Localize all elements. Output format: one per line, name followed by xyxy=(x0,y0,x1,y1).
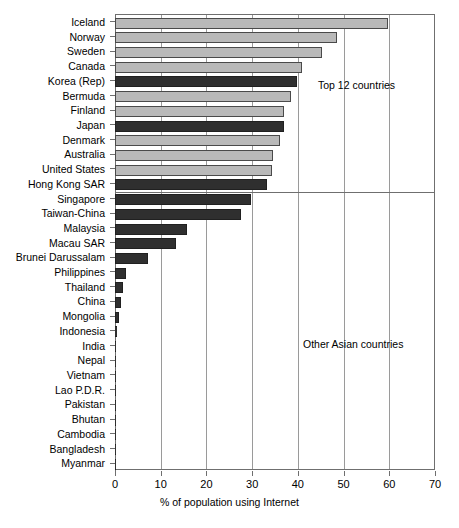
x-tick-0 xyxy=(115,471,116,476)
x-tick-label-70: 70 xyxy=(415,478,455,490)
x-tick-label-30: 30 xyxy=(232,478,272,490)
bar-bhutan xyxy=(115,415,116,426)
bar-sweden xyxy=(115,47,322,58)
bar-denmark xyxy=(115,135,280,146)
bar-pakistan xyxy=(115,400,116,411)
bar-bermuda xyxy=(115,91,291,102)
bar-korea-rep xyxy=(115,76,297,87)
bar-finland xyxy=(115,106,284,117)
x-tick-10 xyxy=(161,471,162,476)
bar-japan xyxy=(115,121,284,132)
bar-united-states xyxy=(115,165,272,176)
bar-bangladesh xyxy=(115,444,116,455)
bar-taiwan-china xyxy=(115,209,241,220)
bar-vietnam xyxy=(115,371,116,382)
x-tick-label-0: 0 xyxy=(95,478,135,490)
bar-macau-sar xyxy=(115,238,176,249)
annotation-top-12: Top 12 countries xyxy=(318,79,395,91)
bar-brunei-darussalam xyxy=(115,253,148,264)
bar-malaysia xyxy=(115,224,187,235)
bar-mongolia xyxy=(115,312,119,323)
x-tick-60 xyxy=(389,471,390,476)
x-tick-40 xyxy=(298,471,299,476)
x-tick-label-10: 10 xyxy=(141,478,181,490)
bar-thailand xyxy=(115,282,123,293)
internet-usage-bar-chart: IcelandNorwaySwedenCanadaKorea (Rep)Berm… xyxy=(0,0,459,528)
bar-row xyxy=(115,456,434,472)
x-tick-70 xyxy=(435,471,436,476)
x-axis-title: % of population using Internet xyxy=(0,496,459,508)
bar-canada xyxy=(115,62,302,73)
x-tick-20 xyxy=(206,471,207,476)
bar-australia xyxy=(115,150,273,161)
bar-lao-p-d-r xyxy=(115,385,116,396)
annotation-other-asian: Other Asian countries xyxy=(303,338,403,350)
x-tick-label-20: 20 xyxy=(186,478,226,490)
bar-philippines xyxy=(115,268,126,279)
bar-myanmar xyxy=(115,459,116,470)
bar-hong-kong-sar xyxy=(115,179,267,190)
bar-norway xyxy=(115,32,337,43)
y-axis-category-labels: IcelandNorwaySwedenCanadaKorea (Rep)Berm… xyxy=(0,14,111,470)
bar-iceland xyxy=(115,18,388,29)
x-tick-label-60: 60 xyxy=(369,478,409,490)
bar-singapore xyxy=(115,194,251,205)
bar-india xyxy=(115,341,116,352)
y-label-myanmar: Myanmar xyxy=(61,455,105,471)
x-tick-label-50: 50 xyxy=(324,478,364,490)
x-tick-30 xyxy=(252,471,253,476)
bar-nepal xyxy=(115,356,116,367)
x-tick-50 xyxy=(344,471,345,476)
bar-cambodia xyxy=(115,429,116,440)
bar-indonesia xyxy=(115,326,117,337)
group-separator-line xyxy=(115,192,434,193)
x-tick-label-40: 40 xyxy=(278,478,318,490)
bar-china xyxy=(115,297,121,308)
